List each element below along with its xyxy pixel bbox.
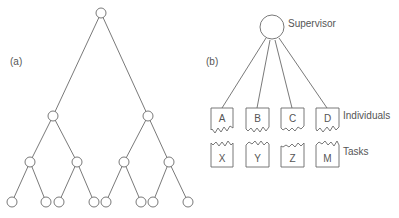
task-label: Z [289, 153, 295, 164]
task-box-z: Z [281, 143, 304, 167]
tree-nodes [7, 8, 193, 207]
tree-edge [53, 116, 77, 162]
tree-node [25, 157, 35, 167]
individuals-label: Individuals [343, 110, 390, 121]
panel-b-label: (b) [206, 56, 218, 67]
task-box-y: Y [246, 141, 269, 167]
individual-box-a: A [211, 108, 233, 133]
tree-edge [148, 116, 169, 162]
tree-edge [124, 116, 148, 162]
tree-node [143, 111, 153, 121]
supervisor-edge-c [275, 40, 292, 108]
tree-edges [12, 13, 188, 202]
tasks-label: Tasks [343, 146, 369, 157]
tree-node [101, 197, 111, 207]
tree-edge [153, 162, 169, 202]
tree-node [148, 197, 158, 207]
tree-edge [106, 162, 124, 202]
supervisor-edge-b [257, 40, 270, 108]
tree-node [183, 197, 193, 207]
tree-edge [30, 116, 53, 162]
tree-node [89, 197, 99, 207]
individual-label: D [324, 113, 331, 124]
tree-node [54, 197, 64, 207]
tree-edge [12, 162, 30, 202]
diagram-canvas: (a) (b) Supervisor A B C D Individuals [0, 0, 399, 218]
task-box-x: X [211, 141, 233, 167]
tree-node [136, 197, 146, 207]
task-label: Y [254, 153, 261, 164]
tree-edge [124, 162, 141, 202]
task-label: M [323, 153, 331, 164]
tree-edge [101, 13, 148, 116]
tree-node [41, 197, 51, 207]
supervisor-node [260, 15, 284, 39]
tree-node [48, 111, 58, 121]
supervisor-edge-d [279, 38, 327, 108]
individual-label: C [289, 113, 296, 124]
panel-a-tree [7, 8, 193, 207]
tree-edge [59, 162, 77, 202]
task-label: X [219, 153, 226, 164]
tree-edge [169, 162, 188, 202]
individual-box-d: D [316, 108, 339, 132]
panel-a-label: (a) [10, 56, 22, 67]
tree-node [7, 197, 17, 207]
supervisor-label: Supervisor [288, 18, 336, 29]
task-box-m: M [316, 141, 339, 167]
tree-node [119, 157, 129, 167]
individual-box-b: B [246, 108, 269, 132]
panel-b-hierarchy: Supervisor A B C D Individuals X Y [211, 15, 390, 167]
tree-edge [30, 162, 46, 202]
tree-edge [77, 162, 94, 202]
individual-label: A [219, 113, 226, 124]
tree-node [96, 8, 106, 18]
tree-edge [53, 13, 101, 116]
tree-node [72, 157, 82, 167]
tree-node [164, 157, 174, 167]
individual-label: B [254, 113, 261, 124]
individual-box-c: C [281, 108, 304, 131]
